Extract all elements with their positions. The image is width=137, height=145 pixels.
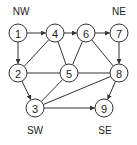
node-2: 2	[9, 64, 27, 82]
node-label: 3	[32, 103, 38, 115]
node-label: 1	[15, 28, 21, 40]
node-7: 7	[110, 24, 128, 42]
node-6: 6	[77, 24, 95, 42]
edge-8-9	[108, 81, 116, 99]
node-label: 4	[52, 28, 58, 40]
node-label: 2	[15, 68, 21, 80]
edge-6-5	[73, 41, 83, 64]
corner-label-ne: NE	[112, 6, 126, 17]
node-4: 4	[46, 24, 64, 42]
corner-label-sw: SW	[27, 125, 44, 136]
corner-label-nw: NW	[13, 6, 30, 17]
node-label: 5	[66, 68, 72, 80]
node-label: 9	[101, 103, 107, 115]
node-1: 1	[9, 24, 27, 42]
node-label: 6	[83, 28, 89, 40]
node-label: 7	[116, 28, 122, 40]
node-3: 3	[26, 99, 44, 117]
edge-2-4	[24, 40, 49, 67]
nodes-layer: 123456789	[9, 24, 128, 117]
node-label: 8	[116, 68, 122, 80]
edge-4-5	[58, 41, 66, 64]
edge-2-3	[22, 81, 31, 99]
corner-label-se: SE	[98, 125, 112, 136]
edge-6-8	[92, 40, 114, 66]
node-9: 9	[95, 99, 113, 117]
graph-diagram: 123456789 NWNESWSE	[0, 0, 137, 145]
node-5: 5	[60, 64, 78, 82]
node-8: 8	[110, 64, 128, 82]
